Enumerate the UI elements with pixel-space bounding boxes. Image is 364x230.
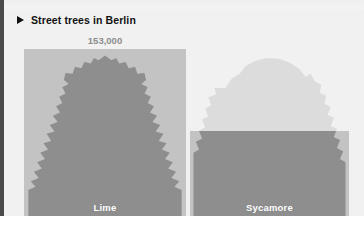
page-title: Street trees in Berlin xyxy=(31,14,136,26)
chart-panel: Street trees in Berlin 153,000 Lime xyxy=(4,0,364,216)
bar-separator xyxy=(186,32,190,216)
bottom-white-margin xyxy=(0,216,364,230)
value-label-lime: 153,000 xyxy=(24,35,186,46)
bar-sycamore[interactable]: Sycamore xyxy=(190,131,349,216)
tree-silhouette-lime xyxy=(26,54,184,216)
chart-title-bar: Street trees in Berlin xyxy=(4,9,364,31)
panel-top-edge xyxy=(4,0,364,9)
bar-lime[interactable]: Lime xyxy=(24,49,186,216)
play-triangle-icon[interactable] xyxy=(17,16,24,24)
screenshot-root: Street trees in Berlin 153,000 Lime xyxy=(0,0,364,230)
value-label-sycamore: 82,000 xyxy=(190,117,349,128)
chart-plot-area: 153,000 Lime xyxy=(4,32,364,216)
category-label-lime: Lime xyxy=(24,202,186,213)
category-label-sycamore: Sycamore xyxy=(190,202,349,213)
